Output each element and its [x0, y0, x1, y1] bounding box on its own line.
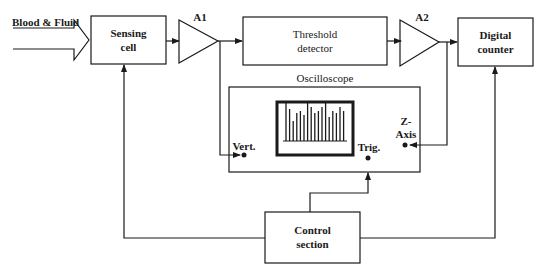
vert-terminal [242, 153, 247, 158]
amplifier-a1 [179, 20, 218, 63]
oscilloscope-block [229, 87, 420, 172]
threshold-detector-label: Threshold detector [243, 27, 387, 55]
amplifier-a2 [400, 20, 439, 66]
z-axis-label: Z- Axis [393, 115, 419, 141]
a1-label: A1 [190, 10, 210, 24]
trig-label: Trig. [354, 140, 384, 154]
oscilloscope-label: Oscilloscope [280, 71, 370, 85]
input-label: Blood & Fluid [12, 15, 82, 29]
sensing-cell-label: Sensing cell [91, 26, 166, 54]
screen-pulse-bars [286, 103, 344, 141]
vert-label: Vert. [229, 139, 259, 153]
z-axis-terminal [403, 143, 408, 148]
control-section-label: Control section [265, 223, 360, 251]
a2-label: A2 [412, 10, 432, 24]
trig-terminal [366, 156, 371, 161]
digital-counter-label: Digital counter [458, 28, 533, 56]
